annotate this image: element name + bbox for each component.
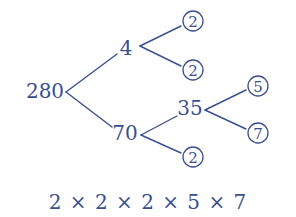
prime-label: 7 [253, 125, 263, 143]
prime-leaf-5: 5 [248, 76, 268, 96]
edge-35-7 [205, 110, 246, 129]
prime-leaf-7: 7 [248, 123, 268, 143]
edge-4-2-mid [140, 46, 181, 66]
factor-tree: 280 4 70 35 2 2 5 7 2 [0, 0, 296, 217]
prime-leaf-2-mid: 2 [183, 60, 203, 80]
node-4: 4 [120, 36, 133, 60]
prime-label: 5 [253, 78, 263, 96]
edge-280-70 [66, 92, 112, 127]
node-35: 35 [177, 96, 202, 120]
edge-4-2-top [140, 26, 181, 46]
edge-70-35 [141, 116, 177, 135]
prime-factorization-formula: 2 × 2 × 2 × 5 × 7 [0, 190, 296, 214]
prime-label: 2 [188, 13, 198, 31]
prime-leaf-2-top: 2 [183, 11, 203, 31]
prime-label: 2 [188, 149, 198, 167]
node-70: 70 [112, 121, 137, 145]
edge-35-5 [205, 90, 246, 110]
edge-280-4 [66, 54, 117, 92]
edges [66, 26, 246, 153]
root-node-280: 280 [26, 79, 64, 103]
prime-label: 2 [188, 62, 198, 80]
edge-70-2-bottom [141, 135, 181, 153]
prime-leaf-2-bottom: 2 [183, 147, 203, 167]
